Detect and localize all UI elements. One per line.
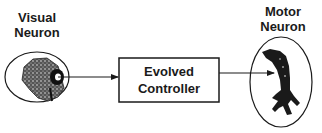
neural-controller-diagram: Visual Neuron Evolved Controller Motor N… [0, 0, 322, 133]
motor-neuron-node [250, 37, 312, 127]
motor-neuron-label: Motor Neuron [252, 4, 314, 34]
visual-neuron-label: Visual Neuron [4, 10, 70, 40]
visual-neuron-label-line1: Visual [4, 10, 70, 25]
motor-neuron-label-line2: Neuron [252, 19, 314, 34]
controller-label-line2: Controller [120, 80, 218, 97]
visual-neuron-cell-icon [22, 58, 64, 101]
controller-label-line1: Evolved [120, 63, 218, 80]
motor-neuron-label-line1: Motor [252, 4, 314, 19]
visual-neuron-label-line2: Neuron [4, 25, 70, 40]
controller-label: Evolved Controller [120, 63, 218, 97]
motor-neuron-cell-icon [262, 49, 300, 115]
